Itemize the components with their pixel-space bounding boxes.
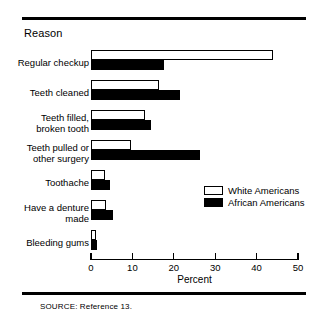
bar-group [91, 50, 273, 70]
category-label: Regular checkup [0, 58, 89, 69]
bar [91, 170, 105, 180]
bar [91, 240, 97, 250]
bar [91, 80, 159, 90]
category-row: Bleeding gums [0, 228, 324, 258]
category-row: Teeth filled, broken tooth [0, 108, 324, 138]
category-label: Bleeding gums [0, 238, 89, 249]
legend-item: African Americans [204, 197, 305, 208]
bar [91, 50, 273, 60]
bar [91, 230, 96, 240]
bar [91, 110, 145, 120]
legend-swatch-icon [204, 198, 223, 207]
category-label: Toothache [0, 178, 89, 189]
legend-item: White Americans [204, 185, 305, 196]
x-axis-tick-label: 40 [251, 262, 262, 273]
source-note: SOURCE: Reference 13. [40, 302, 132, 311]
bar [91, 200, 106, 210]
category-label: Teeth cleaned [0, 88, 89, 99]
figure-container: Reason Regular checkupTeeth cleanedTeeth… [0, 0, 324, 327]
category-row: Teeth pulled or other surgery [0, 138, 324, 168]
x-axis-tick [90, 253, 91, 260]
category-label: Teeth filled, broken tooth [0, 113, 89, 134]
bar [91, 120, 151, 130]
x-axis-tick [173, 253, 174, 260]
x-axis-tick [215, 253, 216, 260]
x-axis-tick-label: 50 [293, 262, 304, 273]
bar [91, 210, 113, 220]
bar-group [91, 80, 180, 100]
x-axis-title: Percent [91, 274, 298, 285]
legend: White AmericansAfrican Americans [204, 185, 305, 209]
legend-label: African Americans [228, 198, 305, 208]
legend-label: White Americans [228, 186, 299, 196]
x-axis-tick [297, 253, 298, 260]
bar-group [91, 140, 200, 160]
x-axis-tick-label: 10 [127, 262, 138, 273]
category-label: Teeth pulled or other surgery [0, 143, 89, 164]
bar-group [91, 170, 110, 190]
category-row: Regular checkup [0, 48, 324, 78]
category-label: Have a denture made [0, 203, 89, 224]
bar [91, 180, 110, 190]
x-axis-tick-label: 30 [210, 262, 221, 273]
legend-swatch-icon [204, 186, 223, 195]
bar-group [91, 200, 113, 220]
x-axis-tick [256, 253, 257, 260]
bar-group [91, 110, 151, 130]
bar-group [91, 230, 97, 250]
x-axis-tick-label: 0 [88, 262, 93, 273]
x-axis-line [91, 259, 298, 260]
bar [91, 60, 164, 70]
bar [91, 150, 200, 160]
bar [91, 140, 131, 150]
bar [91, 90, 180, 100]
x-axis-tick-label: 20 [169, 262, 180, 273]
x-axis-tick [132, 253, 133, 260]
category-row: Teeth cleaned [0, 78, 324, 108]
